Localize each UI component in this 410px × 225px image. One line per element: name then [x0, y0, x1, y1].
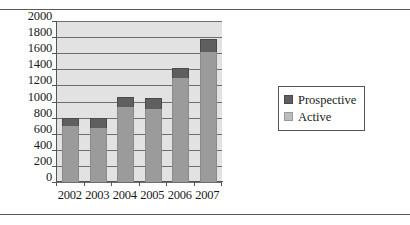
y-tickmark-1200: [52, 85, 56, 86]
bar-group-2003[interactable]: [90, 118, 107, 182]
prospective-swatch-icon: [284, 95, 293, 104]
y-tickmark-1000: [52, 102, 56, 103]
gridline-800: [57, 118, 222, 119]
y-axis-tick-1000: 1000: [6, 91, 52, 103]
legend-label-prospective: Prospective: [298, 93, 356, 107]
figure-bottom-rule: [0, 214, 410, 215]
x-tickmark-0: [56, 182, 57, 186]
gridline-600: [57, 134, 222, 135]
gridline-1200: [57, 85, 222, 86]
y-axis-tick-labels: 2000180016001400120010008006004002000: [6, 16, 52, 182]
y-axis-tick-0: 0: [6, 171, 52, 183]
y-axis-tick-1200: 1200: [6, 74, 52, 86]
bar-segment-active-2003[interactable]: [90, 128, 107, 182]
bar-group-2004[interactable]: [117, 97, 134, 182]
legend-label-active: Active: [298, 110, 331, 124]
chart-legend: ProspectiveActive: [278, 86, 365, 131]
gridline-1600: [57, 53, 222, 54]
y-tickmark-600: [52, 134, 56, 135]
bar-segment-active-2005[interactable]: [145, 109, 162, 182]
y-tickmark-1800: [52, 37, 56, 38]
x-axis-tick-labels: 200220032004200520062007: [56, 188, 221, 206]
bar-segment-active-2004[interactable]: [117, 107, 134, 182]
bar-segment-active-2002[interactable]: [62, 126, 79, 182]
y-axis-tick-200: 200: [6, 155, 52, 167]
bar-group-2002[interactable]: [62, 118, 79, 182]
bar-segment-prospective-2007[interactable]: [200, 39, 217, 52]
y-tickmark-200: [52, 166, 56, 167]
x-tickmark-5: [194, 182, 195, 186]
bar-segment-prospective-2002[interactable]: [62, 118, 79, 126]
y-tickmark-2000: [52, 21, 56, 22]
bar-segment-prospective-2003[interactable]: [90, 118, 107, 128]
gridline-1000: [57, 102, 222, 103]
gridline-400: [57, 150, 222, 151]
x-tickmark-2: [111, 182, 112, 186]
x-tickmark-6: [221, 182, 222, 186]
y-axis-tick-2000: 2000: [6, 10, 52, 22]
chart-figure: 2000180016001400120010008006004002000 20…: [0, 0, 410, 225]
bar-segment-prospective-2004[interactable]: [117, 97, 134, 107]
y-axis-tick-1400: 1400: [6, 58, 52, 70]
gridline-0: [57, 182, 222, 183]
gridline-1800: [57, 37, 222, 38]
y-axis-tick-1600: 1600: [6, 42, 52, 54]
figure-top-rule: [0, 9, 410, 10]
gridline-2000: [57, 21, 222, 22]
bar-segment-active-2007[interactable]: [200, 52, 217, 182]
gridline-1400: [57, 69, 222, 70]
x-tickmark-4: [166, 182, 167, 186]
bar-group-2006[interactable]: [172, 68, 189, 182]
bar-segment-prospective-2006[interactable]: [172, 68, 189, 78]
y-tickmark-400: [52, 150, 56, 151]
active-swatch-icon: [284, 112, 293, 121]
bar-group-2007[interactable]: [200, 39, 217, 182]
bar-segment-active-2006[interactable]: [172, 78, 189, 182]
x-tickmark-1: [84, 182, 85, 186]
gridline-200: [57, 166, 222, 167]
bar-group-2005[interactable]: [145, 98, 162, 182]
y-axis-tick-400: 400: [6, 139, 52, 151]
x-axis-tick-2007: 2007: [190, 188, 224, 202]
bar-segment-prospective-2005[interactable]: [145, 98, 162, 108]
y-tickmark-800: [52, 118, 56, 119]
y-axis-tick-1800: 1800: [6, 26, 52, 38]
y-axis-tick-600: 600: [6, 123, 52, 135]
y-axis-tick-800: 800: [6, 107, 52, 119]
y-tickmark-1400: [52, 69, 56, 70]
y-tickmark-1600: [52, 53, 56, 54]
legend-item-active[interactable]: Active: [284, 108, 356, 125]
legend-item-prospective[interactable]: Prospective: [284, 91, 356, 108]
x-tickmark-3: [139, 182, 140, 186]
plot-area: [56, 21, 222, 182]
